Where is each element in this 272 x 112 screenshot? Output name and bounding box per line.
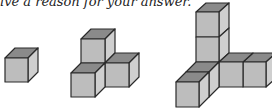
figure-four-cubes [71,29,139,97]
cube-figures [0,0,272,112]
figure-seven-cubes [176,3,272,107]
figure-single-cube [5,48,38,82]
